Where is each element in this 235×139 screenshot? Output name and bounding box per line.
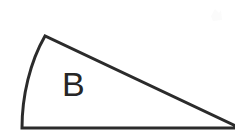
region-label-b: B <box>62 65 85 103</box>
geometric-figure-svg: B <box>0 0 235 139</box>
figure-canvas: B <box>0 0 235 139</box>
